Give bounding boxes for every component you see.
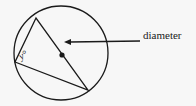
pointer-arrowhead-icon [64, 39, 71, 45]
circle-diagram: y° diameter [0, 0, 196, 106]
diameter-label: diameter [143, 29, 182, 41]
pointer-arrow-shaft [70, 41, 140, 42]
angle-label: y° [16, 48, 30, 62]
center-point [59, 52, 64, 57]
